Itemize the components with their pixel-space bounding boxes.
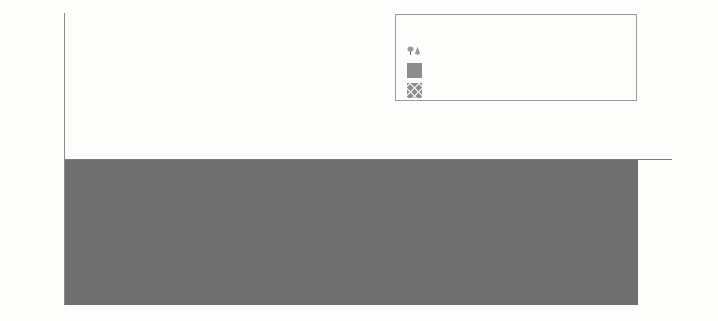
chart-canvas <box>0 0 718 321</box>
solid-square-swatch <box>407 63 422 78</box>
soil-block <box>65 160 638 305</box>
ground-level-line <box>65 159 672 160</box>
legend-box <box>395 14 637 101</box>
hatched-square-swatch <box>407 83 422 98</box>
tree-icon <box>407 43 422 58</box>
